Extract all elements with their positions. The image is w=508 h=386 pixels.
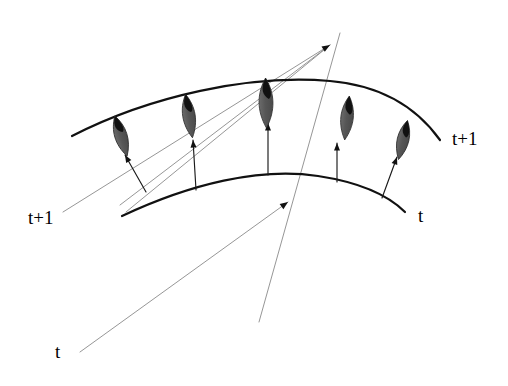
normal-marker-4	[339, 95, 356, 140]
ray-line-ray-4	[80, 202, 288, 352]
label-left-middle: t+1	[28, 208, 54, 227]
ray-line-ray-3	[126, 45, 330, 212]
diagram-svg	[0, 0, 508, 386]
surface-curve-t-plus-1	[72, 80, 440, 140]
leaf-body-leaf-5	[393, 119, 413, 161]
label-upper-right: t+1	[452, 129, 478, 148]
normal-marker-3	[259, 78, 274, 128]
normal-marker-2	[179, 93, 198, 138]
normal-markers-group	[109, 78, 413, 161]
label-lower-right: t	[418, 206, 423, 225]
normal-arrow-head-arrow-2	[190, 140, 197, 148]
normal-arrow-head-arrow-4	[334, 143, 340, 151]
normal-marker-5	[393, 119, 413, 161]
leaf-body-leaf-1	[109, 114, 133, 158]
ray-arrowhead-ray-head-mid	[280, 199, 290, 209]
normal-marker-1	[109, 114, 133, 158]
diagram-canvas: t+1tt+1t	[0, 0, 508, 386]
normal-arrows-group	[122, 123, 399, 198]
ray-lines-group	[63, 33, 340, 352]
label-bottom-left: t	[55, 342, 60, 361]
